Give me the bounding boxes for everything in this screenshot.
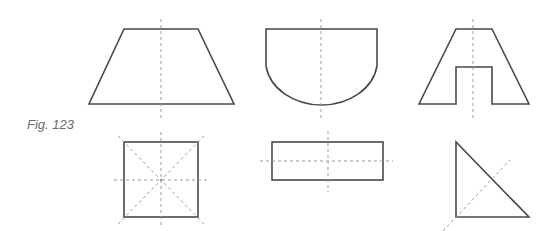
rectangle-view bbox=[260, 131, 393, 192]
diagonal-centerline bbox=[443, 160, 510, 231]
a-shape-view bbox=[419, 19, 529, 118]
trapezoid-view bbox=[89, 19, 234, 118]
d-shape-view bbox=[266, 19, 377, 118]
triangle-view bbox=[443, 142, 529, 231]
technical-drawing bbox=[0, 0, 555, 231]
square-view bbox=[114, 132, 210, 228]
